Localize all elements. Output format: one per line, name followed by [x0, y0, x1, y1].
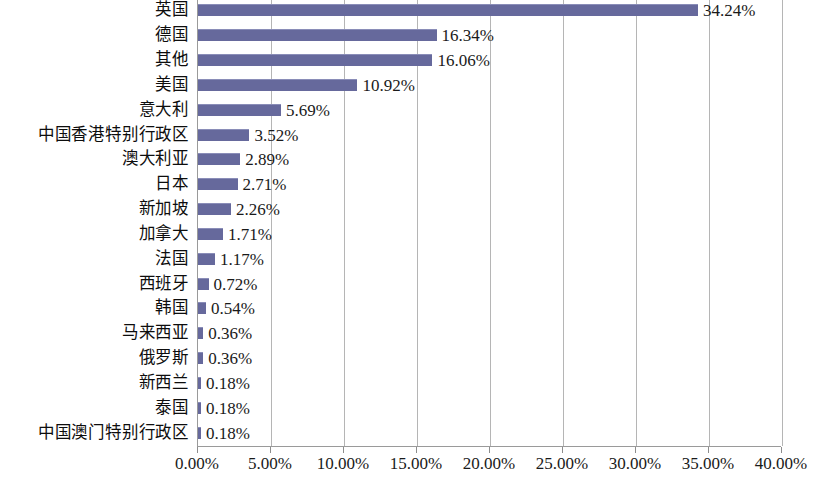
bar-value-label: 0.36% — [208, 350, 252, 367]
category-label: 法国 — [0, 251, 189, 268]
bar — [198, 352, 203, 364]
bar-value-label: 0.72% — [214, 276, 258, 293]
bar-value-label: 0.18% — [206, 400, 250, 417]
bar — [198, 427, 201, 439]
bar-value-label: 16.34% — [442, 27, 494, 44]
bar-value-label: 10.92% — [362, 77, 414, 94]
bar — [198, 4, 698, 16]
bar-value-label: 0.18% — [206, 425, 250, 442]
category-label: 新西兰 — [0, 375, 189, 392]
bar — [198, 178, 238, 190]
gridline — [636, 0, 637, 446]
category-label: 意大利 — [0, 102, 189, 119]
bar-value-label: 16.06% — [437, 52, 489, 69]
gridline — [490, 0, 491, 446]
bar-value-label: 1.17% — [220, 251, 264, 268]
category-label: 新加坡 — [0, 201, 189, 218]
bar-value-label: 0.36% — [208, 325, 252, 342]
bar-value-label: 2.71% — [243, 176, 287, 193]
gridline — [563, 0, 564, 446]
bar — [198, 253, 215, 265]
category-label: 俄罗斯 — [0, 350, 189, 367]
x-tick-mark — [343, 447, 344, 453]
bar — [198, 29, 437, 41]
bar-value-label: 5.69% — [286, 102, 330, 119]
x-tick-label: 25.00% — [536, 455, 588, 472]
x-tick-label: 40.00% — [755, 455, 807, 472]
bar — [198, 153, 240, 165]
bar — [198, 79, 357, 91]
bar-value-label: 2.26% — [236, 201, 280, 218]
category-label: 德国 — [0, 27, 189, 44]
category-label: 加拿大 — [0, 226, 189, 243]
gridline — [344, 0, 345, 446]
category-label: 美国 — [0, 77, 189, 94]
category-label: 日本 — [0, 176, 189, 193]
category-label: 澳大利亚 — [0, 151, 189, 168]
category-label: 英国 — [0, 2, 189, 19]
x-tick-mark — [416, 447, 417, 453]
x-tick-mark — [708, 447, 709, 453]
bar — [198, 278, 209, 290]
gridline — [782, 0, 783, 446]
gridline — [417, 0, 418, 446]
bar — [198, 377, 201, 389]
bar-value-label: 3.52% — [254, 127, 298, 144]
category-label: 泰国 — [0, 400, 189, 417]
bar-value-label: 0.18% — [206, 375, 250, 392]
category-label: 西班牙 — [0, 276, 189, 293]
category-axis: 英国德国其他美国意大利中国香港特别行政区澳大利亚日本新加坡加拿大法国西班牙韩国马… — [0, 0, 193, 447]
value-axis: 0.00%5.00%10.00%15.00%20.00%25.00%30.00%… — [197, 447, 781, 481]
x-tick-label: 0.00% — [175, 455, 219, 472]
x-tick-mark — [562, 447, 563, 453]
x-tick-label: 35.00% — [682, 455, 734, 472]
category-label: 其他 — [0, 52, 189, 69]
x-tick-mark — [489, 447, 490, 453]
bar — [198, 129, 249, 141]
bar-value-label: 34.24% — [703, 2, 755, 19]
gridline — [709, 0, 710, 446]
bar — [198, 104, 281, 116]
category-label: 马来西亚 — [0, 325, 189, 342]
x-tick-mark — [781, 447, 782, 453]
bar-value-label: 1.71% — [228, 226, 272, 243]
bar — [198, 54, 432, 66]
bar — [198, 228, 223, 240]
bar — [198, 203, 231, 215]
bar-value-label: 2.89% — [245, 151, 289, 168]
x-tick-label: 30.00% — [609, 455, 661, 472]
x-tick-label: 20.00% — [463, 455, 515, 472]
category-label: 韩国 — [0, 300, 189, 317]
x-tick-mark — [635, 447, 636, 453]
category-label: 中国香港特别行政区 — [0, 127, 189, 144]
x-tick-mark — [270, 447, 271, 453]
bar-chart: 英国德国其他美国意大利中国香港特别行政区澳大利亚日本新加坡加拿大法国西班牙韩国马… — [0, 0, 820, 481]
plot-area: 34.24%16.34%16.06%10.92%5.69%3.52%2.89%2… — [197, 0, 781, 447]
bar — [198, 402, 201, 414]
category-label: 中国澳门特别行政区 — [0, 425, 189, 442]
gridline — [271, 0, 272, 446]
bar-value-label: 0.54% — [211, 300, 255, 317]
x-tick-label: 15.00% — [390, 455, 442, 472]
bar — [198, 327, 203, 339]
x-tick-mark — [197, 447, 198, 453]
bar — [198, 302, 206, 314]
x-tick-label: 10.00% — [317, 455, 369, 472]
x-tick-label: 5.00% — [248, 455, 292, 472]
